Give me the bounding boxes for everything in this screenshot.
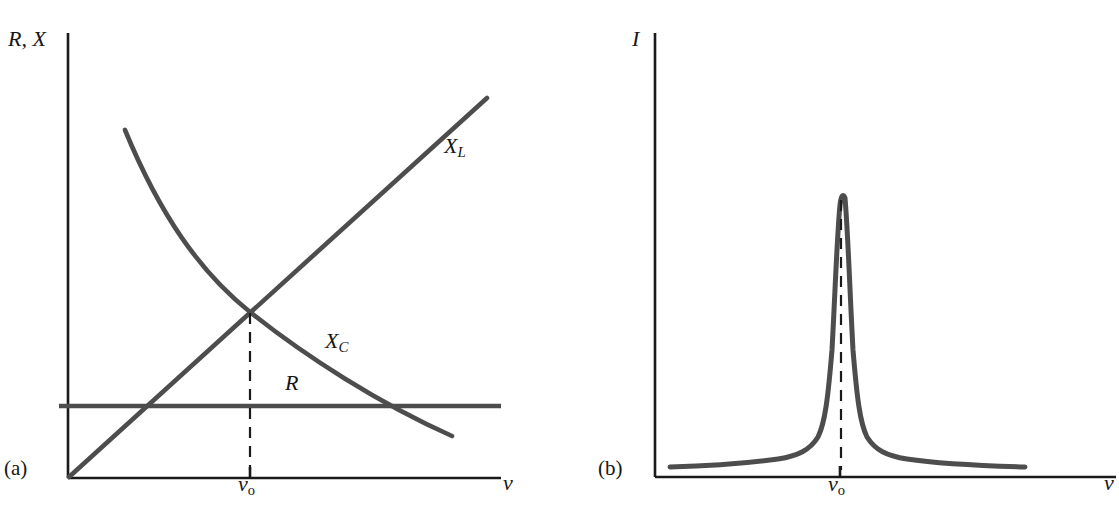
curve-I-resonance <box>670 196 1025 467</box>
panel-a: (a) R, X ν νo XL XC R <box>0 0 560 512</box>
curve-label-XL-subscript: L <box>457 144 465 160</box>
panel-b-tick-symbol: ν <box>828 471 838 496</box>
curve-label-XL-symbol: X <box>444 133 457 158</box>
panel-b-x-axis-label: ν <box>1104 472 1114 494</box>
panel-a-plot <box>0 0 560 512</box>
panel-a-y-axis-label: R, X <box>8 28 46 50</box>
panel-b-plot <box>560 0 1119 512</box>
curve-XL <box>69 98 487 477</box>
curve-label-XL: XL <box>444 135 466 160</box>
panel-a-tick-symbol: ν <box>238 471 248 496</box>
panel-b-x-tick-label: νo <box>828 473 845 497</box>
panel-a-x-tick-label: νo <box>238 473 255 497</box>
curve-label-XC-subscript: C <box>338 339 348 355</box>
panel-b: (b) I ν νo <box>560 0 1119 512</box>
panel-a-x-axis-label: ν <box>503 472 513 494</box>
curve-label-XC-symbol: X <box>325 328 338 353</box>
curve-label-XC: XC <box>325 330 348 355</box>
panel-b-y-axis-label: I <box>632 28 639 50</box>
curve-label-R: R <box>285 372 298 394</box>
panel-a-tag: (a) <box>4 458 27 479</box>
resonance-figure: (a) R, X ν νo XL XC R (b) I <box>0 0 1119 512</box>
panel-a-tick-subscript: o <box>248 482 255 498</box>
panel-b-tag: (b) <box>598 458 623 479</box>
panel-b-tick-subscript: o <box>838 482 845 498</box>
